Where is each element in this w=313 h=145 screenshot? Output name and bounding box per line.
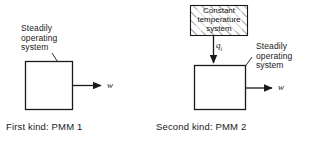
pmm1-system-box — [26, 62, 73, 110]
pmm1-caption: First kind: PMM 1 — [6, 121, 82, 132]
pmm2-leader-line — [246, 57, 253, 66]
pmm2-caption: Second kind: PMM 2 — [156, 121, 246, 132]
pmm1-group — [26, 53, 102, 110]
pmm2-source-label: Constant temperature system — [192, 7, 246, 33]
pmm2-heat-label: qi — [216, 40, 222, 52]
pmm2-work-label: w — [278, 82, 284, 92]
pmm2-system-box — [195, 66, 246, 110]
pmm1-leader-line — [52, 53, 58, 62]
pmm1-work-label: w — [107, 80, 113, 90]
pmm2-heat-label-subscript: i — [221, 46, 223, 52]
pmm1-system-label: Steadily operating system — [21, 24, 57, 53]
pmm-figure: Steadily operating system w First kind: … — [0, 0, 313, 145]
pmm2-system-label: Steadily operating system — [256, 42, 292, 71]
